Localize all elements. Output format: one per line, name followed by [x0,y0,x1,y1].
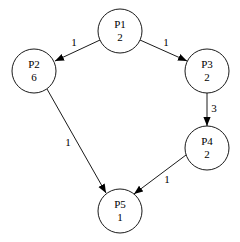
node-p2[interactable]: P2 6 [12,49,56,93]
node-label: P3 [201,58,213,70]
edge-p2-p5: 1 [47,89,106,193]
node-p3[interactable]: P3 2 [185,49,229,93]
edge-weight-p2-p5: 1 [65,136,71,148]
node-value: 2 [204,71,210,83]
edge-weight-p4-p5: 1 [164,173,170,185]
node-p4[interactable]: P4 2 [185,126,229,170]
node-value: 6 [31,71,37,83]
edge-weight-p1-p3: 1 [163,36,169,48]
node-label: P5 [114,198,126,210]
node-label: P2 [28,58,40,70]
node-value: 2 [204,148,210,160]
node-label: P4 [201,135,213,147]
node-p5[interactable]: P5 1 [98,189,142,233]
node-value: 1 [117,211,123,223]
graph-canvas: 1 1 3 1 1 P1 2 P2 6 P3 2 P4 2 P5 1 [0,0,240,242]
node-label: P1 [114,18,126,30]
node-value: 2 [117,31,123,43]
edge-p4-p5: 1 [134,155,186,194]
edge-weight-p1-p2: 1 [71,36,77,48]
edge-p1-p3: 1 [140,36,187,61]
edge-p1-p2: 1 [55,36,100,61]
node-p1[interactable]: P1 2 [98,9,142,53]
edge-p3-p4: 3 [207,93,217,126]
edge-weight-p3-p4: 3 [211,102,217,114]
